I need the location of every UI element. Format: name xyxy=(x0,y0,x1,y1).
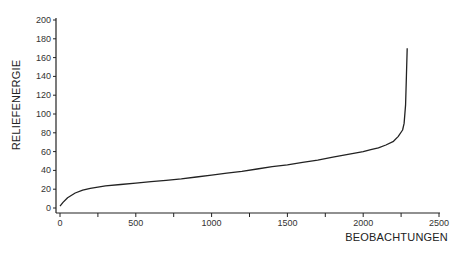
y-tick-label: 80 xyxy=(41,128,51,138)
x-tick-label: 1500 xyxy=(277,218,297,228)
chart: 020406080100120140160180200 050010001500… xyxy=(0,0,463,254)
y-tick-label: 20 xyxy=(41,184,51,194)
y-axis: 020406080100120140160180200 xyxy=(36,15,56,213)
data-line xyxy=(60,48,407,206)
x-tick-label: 0 xyxy=(57,218,62,228)
y-tick-label: 160 xyxy=(36,53,51,63)
x-tick-label: 1000 xyxy=(202,218,222,228)
x-tick-label: 500 xyxy=(128,218,143,228)
y-tick-label: 200 xyxy=(36,15,51,25)
y-tick-label: 60 xyxy=(41,147,51,157)
y-tick-label: 120 xyxy=(36,90,51,100)
y-tick-label: 180 xyxy=(36,34,51,44)
y-tick-label: 40 xyxy=(41,165,51,175)
x-axis-title: BEOBACHTUNGEN xyxy=(345,231,448,243)
x-tick-label: 2000 xyxy=(353,218,373,228)
y-axis-title: RELIEFENERGIE xyxy=(10,60,22,151)
x-tick-label: 2500 xyxy=(429,218,449,228)
y-tick-label: 0 xyxy=(46,203,51,213)
x-axis: 05001000150020002500 xyxy=(56,213,449,228)
y-tick-label: 140 xyxy=(36,71,51,81)
y-tick-label: 100 xyxy=(36,109,51,119)
